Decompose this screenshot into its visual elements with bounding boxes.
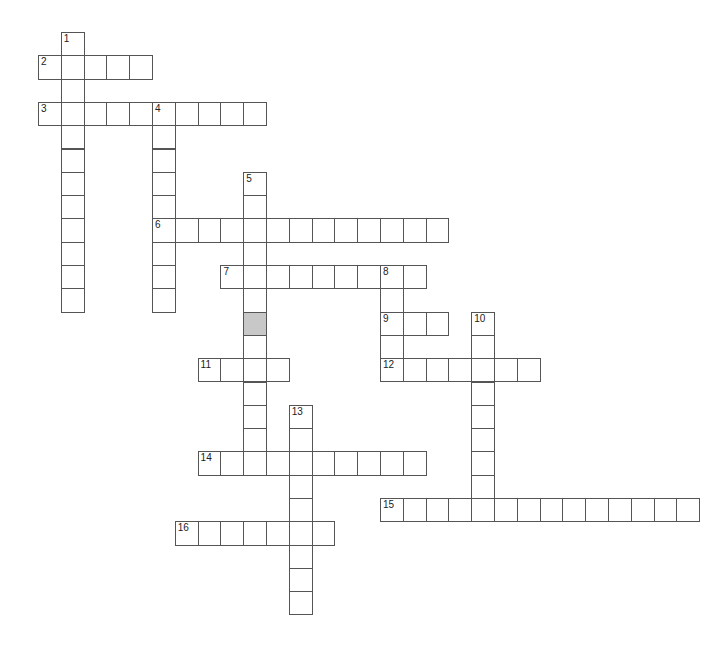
crossword-cell[interactable] <box>403 358 427 382</box>
crossword-cell[interactable] <box>334 218 358 242</box>
crossword-cell[interactable] <box>471 475 495 499</box>
crossword-cell[interactable] <box>198 218 222 242</box>
crossword-cell[interactable] <box>585 498 609 522</box>
crossword-cell[interactable] <box>403 498 427 522</box>
crossword-cell[interactable] <box>357 218 381 242</box>
crossword-cell[interactable] <box>243 335 267 359</box>
crossword-cell[interactable] <box>471 428 495 452</box>
crossword-cell[interactable]: 1 <box>61 32 85 56</box>
crossword-cell[interactable] <box>220 218 244 242</box>
crossword-cell[interactable] <box>357 265 381 289</box>
crossword-cell[interactable] <box>631 498 655 522</box>
crossword-cell[interactable] <box>312 521 336 545</box>
crossword-cell[interactable] <box>61 195 85 219</box>
crossword-cell[interactable] <box>471 335 495 359</box>
crossword-cell[interactable] <box>152 242 176 266</box>
crossword-cell[interactable] <box>198 521 222 545</box>
crossword-cell[interactable] <box>403 312 427 336</box>
crossword-cell[interactable]: 15 <box>380 498 404 522</box>
crossword-cell[interactable] <box>152 172 176 196</box>
crossword-cell[interactable] <box>562 498 586 522</box>
crossword-cell[interactable] <box>380 335 404 359</box>
crossword-cell[interactable] <box>243 405 267 429</box>
crossword-cell[interactable] <box>654 498 678 522</box>
crossword-cell[interactable] <box>289 568 313 592</box>
crossword-cell[interactable] <box>471 451 495 475</box>
crossword-cell[interactable] <box>152 125 176 149</box>
crossword-cell[interactable] <box>243 288 267 312</box>
crossword-cell[interactable] <box>426 312 450 336</box>
crossword-cell[interactable] <box>312 265 336 289</box>
crossword-cell[interactable] <box>517 358 541 382</box>
crossword-cell[interactable] <box>380 218 404 242</box>
crossword-cell[interactable] <box>61 55 85 79</box>
crossword-cell[interactable] <box>289 521 313 545</box>
crossword-cell[interactable] <box>471 358 495 382</box>
crossword-cell[interactable] <box>471 382 495 406</box>
crossword-cell[interactable] <box>152 265 176 289</box>
crossword-cell[interactable] <box>61 79 85 103</box>
crossword-cell[interactable] <box>517 498 541 522</box>
crossword-cell[interactable] <box>289 265 313 289</box>
crossword-cell[interactable] <box>289 498 313 522</box>
crossword-cell[interactable]: 7 <box>220 265 244 289</box>
crossword-cell[interactable] <box>334 451 358 475</box>
crossword-cell[interactable] <box>243 102 267 126</box>
crossword-cell[interactable] <box>448 498 472 522</box>
crossword-cell[interactable] <box>152 149 176 173</box>
crossword-cell[interactable] <box>106 55 130 79</box>
crossword-cell[interactable] <box>220 451 244 475</box>
crossword-cell[interactable] <box>129 55 153 79</box>
crossword-cell[interactable] <box>129 102 153 126</box>
crossword-cell[interactable] <box>494 358 518 382</box>
crossword-cell[interactable] <box>312 218 336 242</box>
crossword-cell[interactable] <box>243 382 267 406</box>
crossword-cell[interactable] <box>152 288 176 312</box>
crossword-cell[interactable] <box>243 265 267 289</box>
crossword-cell[interactable] <box>540 498 564 522</box>
crossword-cell[interactable] <box>312 451 336 475</box>
crossword-cell[interactable] <box>61 102 85 126</box>
crossword-cell[interactable] <box>426 358 450 382</box>
crossword-cell[interactable] <box>266 358 290 382</box>
crossword-cell[interactable] <box>357 451 381 475</box>
crossword-cell[interactable] <box>289 218 313 242</box>
crossword-cell[interactable] <box>676 498 700 522</box>
crossword-cell[interactable] <box>220 358 244 382</box>
crossword-cell[interactable] <box>403 218 427 242</box>
crossword-cell[interactable] <box>220 521 244 545</box>
crossword-cell[interactable] <box>61 172 85 196</box>
crossword-cell[interactable] <box>243 428 267 452</box>
crossword-cell[interactable] <box>266 218 290 242</box>
crossword-cell[interactable]: 16 <box>175 521 199 545</box>
crossword-cell[interactable] <box>198 102 222 126</box>
crossword-cell[interactable]: 6 <box>152 218 176 242</box>
crossword-cell[interactable] <box>426 498 450 522</box>
crossword-cell[interactable] <box>106 102 130 126</box>
crossword-cell[interactable]: 3 <box>38 102 62 126</box>
crossword-cell[interactable] <box>403 451 427 475</box>
crossword-cell[interactable] <box>289 475 313 499</box>
crossword-cell[interactable] <box>61 149 85 173</box>
crossword-cell[interactable]: 11 <box>198 358 222 382</box>
crossword-cell[interactable] <box>266 521 290 545</box>
crossword-cell[interactable] <box>289 591 313 615</box>
crossword-cell[interactable] <box>243 451 267 475</box>
crossword-cell[interactable] <box>243 521 267 545</box>
crossword-cell[interactable]: 9 <box>380 312 404 336</box>
crossword-cell[interactable] <box>175 102 199 126</box>
crossword-cell[interactable] <box>61 242 85 266</box>
crossword-cell[interactable]: 12 <box>380 358 404 382</box>
crossword-cell[interactable] <box>152 195 176 219</box>
crossword-cell[interactable] <box>448 358 472 382</box>
crossword-cell[interactable] <box>266 265 290 289</box>
crossword-cell[interactable]: 4 <box>152 102 176 126</box>
crossword-cell[interactable] <box>84 55 108 79</box>
crossword-cell[interactable] <box>243 195 267 219</box>
crossword-cell[interactable]: 2 <box>38 55 62 79</box>
crossword-cell[interactable]: 8 <box>380 265 404 289</box>
crossword-cell[interactable]: 14 <box>198 451 222 475</box>
crossword-cell[interactable] <box>471 498 495 522</box>
crossword-cell[interactable]: 5 <box>243 172 267 196</box>
crossword-cell[interactable] <box>61 125 85 149</box>
